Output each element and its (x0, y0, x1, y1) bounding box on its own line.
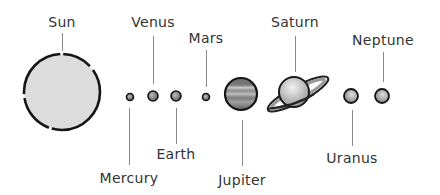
leader-line-uranus (352, 110, 353, 146)
planet-mercury (127, 94, 134, 101)
leader-line-mars (206, 50, 207, 87)
leader-line-venus (153, 36, 154, 84)
planet-uranus (344, 89, 358, 103)
leader-line-earth (176, 108, 177, 144)
label-saturn: Saturn (271, 14, 319, 30)
planet-earth (171, 91, 181, 101)
planet-mars (203, 94, 210, 101)
label-jupiter: Jupiter (218, 172, 266, 188)
leader-line-saturn (295, 36, 296, 72)
leader-line-sun (62, 33, 63, 51)
leader-line-jupiter (242, 120, 243, 166)
label-neptune: Neptune (352, 32, 414, 48)
leader-line-mercury (129, 108, 130, 165)
label-mercury: Mercury (100, 170, 159, 186)
label-sun: Sun (48, 14, 76, 30)
planet-jupiter (225, 78, 257, 110)
label-uranus: Uranus (326, 150, 377, 166)
planet-venus (148, 91, 158, 101)
label-earth: Earth (156, 146, 195, 162)
leader-line-neptune (383, 52, 384, 82)
label-venus: Venus (131, 14, 175, 30)
planet-saturn (264, 71, 332, 117)
solar-system-diagram: SunMercuryVenusEarthMarsJupiterSaturnUra… (0, 0, 440, 195)
planet-neptune (375, 89, 389, 103)
planet-sun (24, 54, 100, 130)
label-mars: Mars (189, 30, 224, 46)
